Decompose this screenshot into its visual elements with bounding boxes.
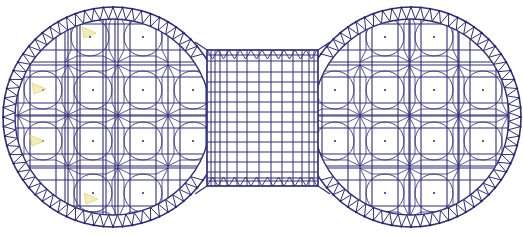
support-marker-icon [84, 193, 98, 204]
bracing-unit [118, 116, 168, 166]
support-marker-icon [82, 27, 96, 38]
support-marker-icon [32, 83, 46, 94]
bracing-unit [360, 116, 410, 166]
bracing-unit [458, 65, 508, 115]
truss-plan-drawing [0, 0, 523, 236]
support-marker-icon [30, 135, 44, 146]
ring-truss [2, 6, 223, 228]
bracing-unit [68, 116, 118, 166]
right-dome [301, 6, 522, 228]
bracing-unit [409, 116, 459, 166]
bracing-unit [118, 65, 168, 115]
bracing-unit [68, 65, 118, 115]
bracing-unit [360, 65, 410, 115]
left-dome [2, 6, 223, 228]
connector-grid [195, 42, 330, 194]
bracing-unit [409, 65, 459, 115]
bracing-unit [360, 168, 410, 218]
structural-diagram [0, 0, 523, 236]
